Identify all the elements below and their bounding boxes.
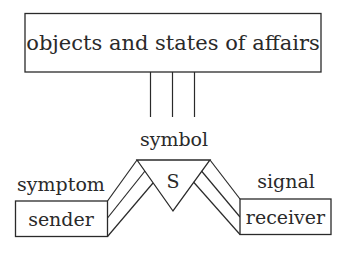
receiver-box: receiver bbox=[240, 199, 331, 235]
representation-lines bbox=[151, 72, 195, 117]
objects-box-label: objects and states of affairs bbox=[26, 31, 319, 55]
sender-label: sender bbox=[28, 208, 95, 230]
symbol-label: symbol bbox=[140, 128, 208, 150]
sign-letter: S bbox=[166, 170, 179, 192]
signal-label: signal bbox=[257, 170, 315, 192]
symptom-label: symptom bbox=[17, 173, 105, 195]
sign-triangle: S bbox=[137, 160, 210, 211]
organon-model-diagram: objects and states of affairs symbol S s… bbox=[0, 0, 340, 256]
receiver-label: receiver bbox=[246, 206, 326, 228]
sender-box: sender bbox=[16, 201, 108, 237]
objects-box: objects and states of affairs bbox=[25, 14, 321, 73]
